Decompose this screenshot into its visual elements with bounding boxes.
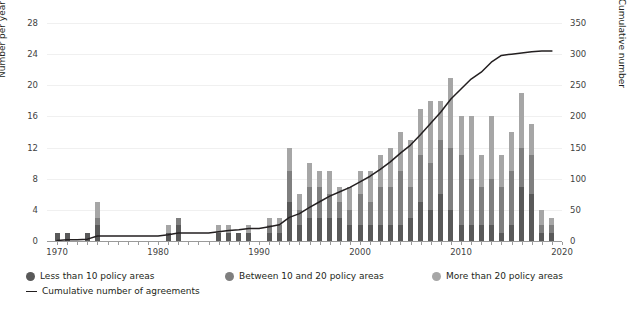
x-axis-tick-mark — [340, 242, 341, 245]
x-axis-tick-mark — [481, 242, 482, 245]
x-axis-line — [47, 241, 562, 242]
x-axis-tick-mark — [108, 242, 109, 245]
x-axis-tick-mark — [471, 242, 472, 245]
x-axis-tick-mark — [188, 242, 189, 245]
y-axis-right-tick-label: 300 — [570, 49, 598, 59]
x-axis-tick-mark — [118, 242, 119, 245]
y-axis-left-tick-label: 8 — [14, 174, 38, 184]
y-axis-left-tick-label: 24 — [14, 49, 38, 59]
x-axis-tick-mark — [299, 242, 300, 245]
x-axis-tick-mark — [552, 242, 553, 245]
x-axis-tick-mark — [320, 242, 321, 245]
y-axis-right-tick-label: 0 — [570, 236, 598, 246]
y-axis-right-tick-label: 100 — [570, 174, 598, 184]
legend: Less than 10 policy areas Between 10 and… — [26, 271, 606, 301]
x-axis-tick-mark — [451, 242, 452, 245]
x-axis-tick-mark — [259, 242, 260, 245]
x-axis-tick-mark — [87, 242, 88, 245]
x-axis-tick-label: 2000 — [340, 247, 380, 257]
x-axis-tick-mark — [441, 242, 442, 245]
x-axis-tick-mark — [400, 242, 401, 245]
x-axis-tick-mark — [501, 242, 502, 245]
y-axis-left-tick-label: 20 — [14, 80, 38, 90]
x-axis-tick-mark — [522, 242, 523, 245]
x-axis-tick-mark — [350, 242, 351, 245]
legend-item-more-than-20[interactable]: More than 20 policy areas — [432, 271, 563, 281]
x-axis-tick-mark — [128, 242, 129, 245]
x-axis-tick-label: 1980 — [138, 247, 178, 257]
x-axis-tick-mark — [77, 242, 78, 245]
y-axis-right-title: Cumulative number — [617, 0, 627, 88]
x-axis-tick-mark — [219, 242, 220, 245]
legend-label: Between 10 and 20 policy areas — [239, 271, 384, 281]
x-axis-tick-mark — [279, 242, 280, 245]
x-axis-tick-mark — [158, 242, 159, 245]
y-axis-left-title: Number per year — [0, 1, 7, 78]
legend-swatch-icon — [432, 272, 441, 281]
x-axis-tick-mark — [542, 242, 543, 245]
x-axis-tick-label: 2020 — [542, 247, 582, 257]
x-axis-tick-mark — [67, 242, 68, 245]
x-axis-tick-mark — [421, 242, 422, 245]
y-axis-right-tick-label: 150 — [570, 143, 598, 153]
x-axis-tick-mark — [148, 242, 149, 245]
legend-label: Cumulative number of agreements — [42, 286, 200, 296]
x-axis-tick-mark — [289, 242, 290, 245]
y-axis-left-tick-label: 0 — [14, 236, 38, 246]
legend-swatch-icon — [225, 272, 234, 281]
x-axis-tick-mark — [491, 242, 492, 245]
x-axis-tick-mark — [411, 242, 412, 245]
x-axis-tick-mark — [390, 242, 391, 245]
x-axis-tick-mark — [249, 242, 250, 245]
x-axis-tick-mark — [330, 242, 331, 245]
legend-row-top: Less than 10 policy areas Between 10 and… — [26, 271, 606, 286]
x-axis-tick-mark — [360, 242, 361, 245]
x-axis-tick-mark — [138, 242, 139, 245]
y-axis-left-tick-label: 4 — [14, 205, 38, 215]
x-axis-tick-mark — [198, 242, 199, 245]
legend-label: Less than 10 policy areas — [40, 271, 154, 281]
y-axis-left-tick-label: 28 — [14, 18, 38, 28]
cumulative-line-path — [57, 51, 552, 240]
y-axis-right-tick-label: 200 — [570, 111, 598, 121]
y-axis-right-tick-label: 50 — [570, 205, 598, 215]
x-axis-tick-mark — [461, 242, 462, 245]
plot-area — [47, 23, 562, 241]
x-axis-tick-mark — [380, 242, 381, 245]
x-axis-tick-mark — [178, 242, 179, 245]
legend-line-icon — [26, 291, 37, 292]
x-axis-tick-mark — [532, 242, 533, 245]
legend-label: More than 20 policy areas — [446, 271, 563, 281]
x-axis-tick-label: 2010 — [441, 247, 481, 257]
x-axis-tick-mark — [269, 242, 270, 245]
x-axis-tick-mark — [310, 242, 311, 245]
legend-item-less-than-10[interactable]: Less than 10 policy areas — [26, 271, 154, 281]
x-axis-tick-mark — [512, 242, 513, 245]
x-axis-tick-mark — [57, 242, 58, 245]
y-axis-right-tick-label: 250 — [570, 80, 598, 90]
legend-item-between-10-and-20[interactable]: Between 10 and 20 policy areas — [225, 271, 384, 281]
x-axis-tick-label: 1990 — [239, 247, 279, 257]
x-axis-tick-mark — [370, 242, 371, 245]
legend-item-cumulative[interactable]: Cumulative number of agreements — [26, 286, 200, 296]
x-axis-tick-mark — [431, 242, 432, 245]
x-axis-tick-mark — [229, 242, 230, 245]
y-axis-right-tick-label: 350 — [570, 18, 598, 28]
x-axis-tick-mark — [209, 242, 210, 245]
legend-swatch-icon — [26, 272, 35, 281]
x-axis-tick-label: 1970 — [37, 247, 77, 257]
x-axis-tick-mark — [562, 242, 563, 245]
x-axis-tick-mark — [97, 242, 98, 245]
legend-row-bottom: Cumulative number of agreements — [26, 286, 606, 301]
y-axis-left-tick-label: 16 — [14, 111, 38, 121]
cumulative-line-series — [47, 23, 562, 241]
y-axis-left-tick-label: 12 — [14, 143, 38, 153]
x-axis-tick-mark — [168, 242, 169, 245]
x-axis-tick-mark — [239, 242, 240, 245]
chart-container: 0481216202428 050100150200250300350 1970… — [0, 0, 628, 313]
